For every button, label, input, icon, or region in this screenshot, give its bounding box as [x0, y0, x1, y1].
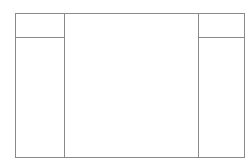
outer-frame [15, 13, 245, 158]
left-column-header [16, 14, 64, 38]
right-column [198, 14, 244, 157]
right-column-body [199, 38, 244, 157]
wireframe-canvas [0, 0, 252, 167]
left-column-body [16, 38, 64, 157]
right-column-header [199, 14, 244, 38]
left-column [16, 14, 65, 157]
center-panel [65, 14, 198, 157]
